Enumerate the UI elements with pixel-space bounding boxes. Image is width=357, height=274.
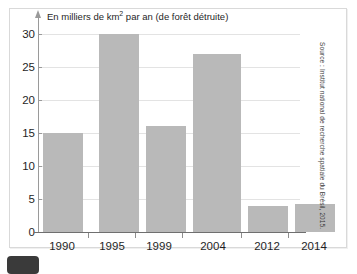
axis-title-main: En milliers de km bbox=[47, 11, 119, 22]
bar-2004[interactable] bbox=[193, 54, 241, 232]
y-tick-label: 25 bbox=[9, 62, 35, 74]
corner-badge bbox=[7, 256, 39, 274]
x-tick-label-1995: 1995 bbox=[90, 241, 134, 253]
y-tick-label: 15 bbox=[9, 128, 35, 140]
y-tick-label: 20 bbox=[9, 95, 35, 107]
x-tick-mark bbox=[88, 233, 89, 238]
bar-series bbox=[41, 22, 300, 232]
x-tick-mark bbox=[135, 233, 136, 238]
x-tick-label-2012: 2012 bbox=[246, 241, 288, 253]
axis-title: En milliers de km2 par an (de forêt détr… bbox=[47, 12, 228, 22]
x-tick-mark bbox=[288, 233, 289, 238]
x-tick-label-2004: 2004 bbox=[187, 241, 239, 253]
bar-1999[interactable] bbox=[146, 126, 186, 232]
axis-title-rest: par an (de forêt détruite) bbox=[123, 11, 228, 22]
y-axis-labels: 30 25 20 15 10 5 0 bbox=[5, 0, 35, 240]
bar-2012[interactable] bbox=[248, 206, 288, 232]
x-tick-label-1990: 1990 bbox=[38, 241, 86, 253]
bar-2014[interactable] bbox=[295, 204, 335, 232]
y-tick-label: 10 bbox=[9, 161, 35, 173]
x-tick-mark bbox=[241, 233, 242, 238]
x-tick-mark bbox=[182, 233, 183, 238]
y-tick-label: 0 bbox=[9, 227, 35, 239]
y-axis-line bbox=[38, 14, 39, 233]
y-axis-arrow-icon bbox=[35, 10, 41, 18]
x-tick-label-2014: 2014 bbox=[293, 241, 335, 253]
bar-1995[interactable] bbox=[99, 34, 139, 232]
y-tick-label: 30 bbox=[9, 29, 35, 41]
x-axis-line bbox=[34, 232, 306, 233]
source-credit: Source : Institut national de recherche … bbox=[319, 42, 326, 222]
bar-1990[interactable] bbox=[43, 133, 83, 232]
x-tick-label-1999: 1999 bbox=[137, 241, 181, 253]
y-tick-label: 5 bbox=[9, 194, 35, 206]
